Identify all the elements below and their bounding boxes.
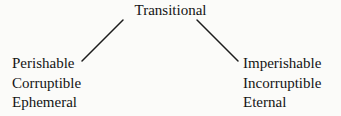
root-node: Transitional	[0, 2, 341, 18]
right-connector-line	[197, 20, 238, 61]
left-branch-item-1: Perishable	[12, 54, 81, 74]
root-node-label: Transitional	[135, 2, 207, 18]
tree-diagram: Transitional Perishable Corruptible Ephe…	[0, 0, 341, 116]
right-branch-item-2: Incorruptible	[243, 74, 321, 94]
left-branch-item-2: Corruptible	[12, 74, 81, 94]
right-branch-item-3: Eternal	[243, 93, 321, 113]
left-branch-group: Perishable Corruptible Ephemeral	[12, 54, 81, 113]
left-branch-item-3: Ephemeral	[12, 93, 81, 113]
right-branch-group: Imperishable Incorruptible Eternal	[243, 54, 321, 113]
left-connector-line	[82, 20, 123, 61]
right-branch-item-1: Imperishable	[243, 54, 321, 74]
